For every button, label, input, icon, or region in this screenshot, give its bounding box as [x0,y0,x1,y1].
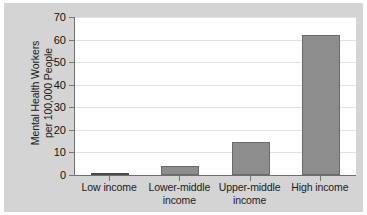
bar-series [75,17,356,175]
x-axis-tick-label: High income [285,181,355,194]
y-axis-tick-label: 60 [40,34,66,46]
y-axis-tick-label: 30 [40,101,66,113]
bar [91,173,129,175]
x-axis-tick-label-line: High income [285,181,355,194]
x-axis-tick-label-line: income [144,194,214,207]
y-axis-tick-label: 20 [40,124,66,136]
x-axis-tick-label: Upper-middleincome [215,181,285,206]
x-axis-tick-label: Low income [74,181,144,194]
bar [302,35,340,175]
chart-figure: Mental Health Workers per 100,000 People… [4,3,363,212]
y-axis-tick-label: 70 [40,11,66,23]
x-axis-tick-label-line: Upper-middle [215,181,285,194]
y-axis-tick-label: 50 [40,56,66,68]
y-axis-tick-label: 40 [40,79,66,91]
y-axis-tick-label: 0 [40,169,66,181]
x-axis-tick-label-line: income [215,194,285,207]
y-axis-tick-label: 10 [40,146,66,158]
plot-area [74,17,356,176]
x-axis-tick-label: Lower-middleincome [144,181,214,206]
x-axis-tick-label-line: Lower-middle [144,181,214,194]
bar [161,166,199,175]
x-axis-tick-labels: Low incomeLower-middleincomeUpper-middle… [74,181,356,211]
bar [232,142,270,175]
x-axis-tick-label-line: Low income [74,181,144,194]
y-axis-tick-labels: 010203040506070 [40,17,66,175]
